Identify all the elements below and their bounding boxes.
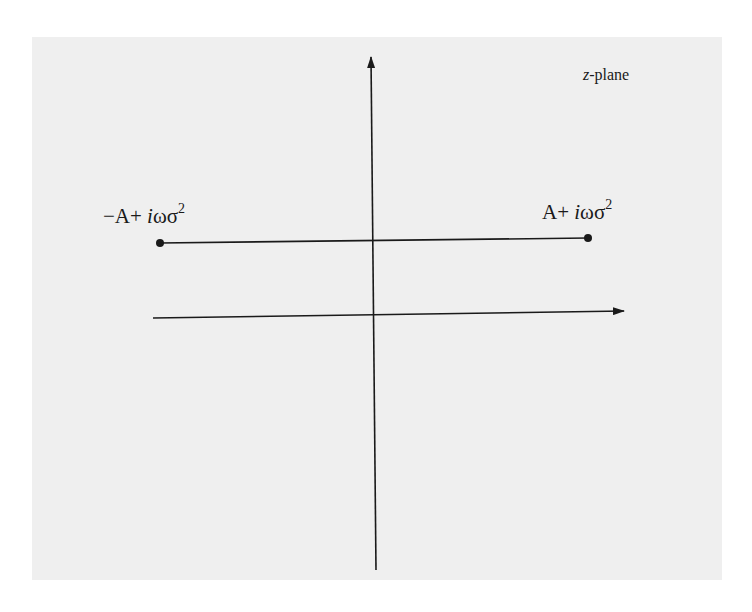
left-prefix: −A+ <box>103 204 147 228</box>
right-endpoint-label: A+ iωσ2 <box>542 199 612 225</box>
left-exponent: 2 <box>178 201 185 216</box>
left-endpoint-label: −A+ iωσ2 <box>103 203 185 229</box>
imaginary-axis <box>371 57 376 570</box>
right-prefix: A+ <box>542 200 574 224</box>
plane-label: z-plane <box>583 66 629 84</box>
branch-cut-segment <box>160 238 588 243</box>
right-endpoint-dot <box>584 234 592 242</box>
right-omega-sigma: ωσ <box>580 200 605 224</box>
real-axis <box>153 311 624 318</box>
plane-text: -plane <box>589 66 629 83</box>
right-exponent: 2 <box>605 197 612 212</box>
z-plane-diagram <box>0 0 752 612</box>
left-endpoint-dot <box>156 239 164 247</box>
left-omega-sigma: ωσ <box>153 204 178 228</box>
